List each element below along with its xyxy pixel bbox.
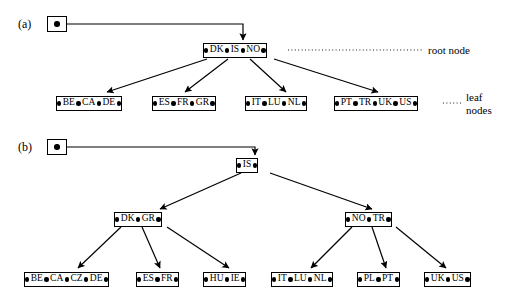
edge-a-start-to-root [67,24,243,40]
node-key: BE [29,274,44,284]
node-pointer-dot-icon [104,277,108,281]
edge-b-notr-to-leaf-4 [311,227,352,268]
node-key: BE [61,98,76,108]
edge-b-dkgr-to-leaf-2 [142,227,160,268]
node-key: ES [157,98,171,108]
node-leaf-a-4: PTTRUKUS [334,96,418,111]
node-leaf-b-1: BECACZDE [24,272,109,287]
node-leaf-b-6: UKUS [424,272,471,287]
node-leaf-a-2: ESFRGR [152,96,216,111]
panel-label-a: (a) [18,17,31,32]
node-leaf-b-2: ESFR [136,272,179,287]
annotation-root-node: root node [428,44,470,57]
edge-b-notr-to-leaf-6 [396,227,446,268]
node-key: DK [208,45,225,55]
node-pointer-dot-icon [302,101,306,105]
node-key: PT [381,274,395,284]
node-key: FR [160,274,174,284]
node-key: IS [241,160,252,170]
node-key: TR [371,214,386,224]
edge-a-root-to-leaf-1 [107,59,207,92]
node-pointer-dot-icon [413,101,417,105]
node-leaf-b-4: ITLUNL [271,272,333,287]
node-key: NO [350,214,367,224]
node-key: GR [140,214,156,224]
node-pointer-dot-icon [465,277,469,281]
node-key: LU [293,274,308,284]
edge-b-root-to-internal-1 [160,173,241,209]
node-internal-b-1: DKGR [114,212,162,227]
node-pointer-dot-icon [395,277,399,281]
pointer-dot-icon [54,21,59,26]
panel-label-b: (b) [18,140,32,155]
node-key: NL [312,274,327,284]
node-key: IT [276,274,288,284]
node-pointer-dot-icon [261,48,265,52]
node-pointer-dot-icon [386,217,390,221]
node-key: PL [362,274,376,284]
node-key: CA [81,98,97,108]
node-key: DE [101,98,116,108]
edge-a-root-to-leaf-4 [274,59,378,92]
node-key: ES [141,274,155,284]
edge-b-dkgr-to-leaf-1 [78,227,121,268]
node-pointer-dot-icon [117,101,121,105]
node-pointer-dot-icon [174,277,178,281]
node-key: GR [194,98,210,108]
edge-b-notr-to-leaf-5 [372,227,386,268]
node-pointer-dot-icon [210,101,214,105]
node-internal-b-2: NOTR [345,212,392,227]
node-key: US [450,274,465,284]
node-key: IT [250,98,262,108]
edge-a-root-to-leaf-2 [185,59,228,92]
start-pointer-a [47,16,67,32]
node-key: DE [88,274,103,284]
annotation-leaf-nodes: leaf nodes [466,91,492,116]
node-key: US [398,98,413,108]
node-key: IE [229,274,241,284]
edge-b-start-to-root [67,147,255,155]
node-key: TR [358,98,373,108]
node-key: NL [286,98,301,108]
node-key: PT [339,98,353,108]
node-key: FR [176,98,190,108]
node-pointer-dot-icon [156,217,160,221]
node-root-b: IS [236,158,258,173]
node-leaf-b-3: HUIE [203,272,246,287]
btree-figure: (a) (b) DKISNO BECADE ESFRGR ITLUNL PTTR… [0,0,506,306]
node-pointer-dot-icon [253,163,257,167]
pointer-dot-icon [54,144,59,149]
node-key: CA [49,274,65,284]
edge-b-root-to-internal-2 [270,173,372,209]
node-pointer-dot-icon [328,277,332,281]
node-pointer-dot-icon [241,277,245,281]
node-key: UK [429,274,446,284]
edge-b-dkgr-to-leaf-3 [167,227,229,268]
node-key: CZ [69,274,84,284]
node-key: HU [208,274,225,284]
node-leaf-b-5: PLPT [357,272,400,287]
node-leaf-a-1: BECADE [56,96,122,111]
node-key: NO [245,45,262,55]
node-root-a: DKISNO [203,43,267,58]
node-key: UK [377,98,394,108]
edge-a-root-to-leaf-3 [250,59,286,92]
node-key: DK [119,214,136,224]
node-leaf-a-3: ITLUNL [245,96,307,111]
node-key: LU [267,98,282,108]
start-pointer-b [47,139,67,155]
node-key: IS [229,45,240,55]
